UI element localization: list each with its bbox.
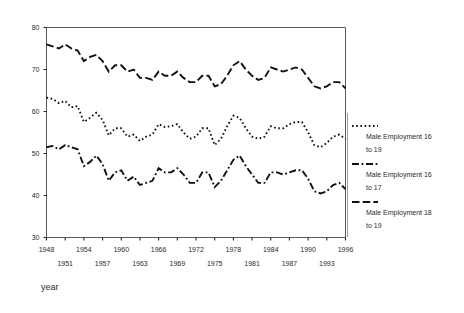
x-tick-label: 1987: [282, 260, 298, 267]
x-tick-label: 1969: [170, 260, 186, 267]
x-tick-label: 1981: [244, 260, 260, 267]
x-tick-label: 1948: [39, 246, 55, 253]
legend-label-1-cont: to 19: [366, 146, 382, 153]
x-axis-tick-labels-major: 194819541960196619721978198419901996: [39, 246, 354, 253]
x-tick-label: 1984: [263, 246, 279, 253]
y-tick-label: 70: [32, 66, 40, 73]
x-tick-label: 1951: [57, 260, 73, 267]
y-tick-label: 50: [32, 150, 40, 157]
legend-label-3-cont: to 19: [366, 222, 382, 229]
x-tick-label: 1975: [207, 260, 223, 267]
y-tick-label: 40: [32, 192, 40, 199]
y-tick-label: 60: [32, 108, 40, 115]
legend-label-2-cont: to 17: [366, 184, 382, 191]
x-tick-label: 1978: [226, 246, 242, 253]
employment-line-chart: 304050607080 194819541960196619721978198…: [0, 0, 464, 313]
y-tick-label: 80: [32, 24, 40, 31]
x-tick-label: 1993: [319, 260, 335, 267]
x-tick-label: 1957: [95, 260, 111, 267]
x-axis-title: year: [41, 282, 59, 292]
x-tick-label: 1954: [76, 246, 92, 253]
x-tick-label: 1990: [300, 246, 316, 253]
x-tick-label: 1966: [151, 246, 167, 253]
x-tick-label: 1963: [132, 260, 148, 267]
legend-label-1: Male Employment 16: [366, 133, 432, 141]
x-tick-label: 1960: [113, 246, 129, 253]
x-tick-label: 1996: [338, 246, 354, 253]
y-tick-label: 30: [32, 234, 40, 241]
legend-label-2: Male Employment 16: [366, 171, 432, 179]
legend-label-3: Male Employment 18: [366, 209, 432, 217]
x-tick-label: 1972: [188, 246, 204, 253]
